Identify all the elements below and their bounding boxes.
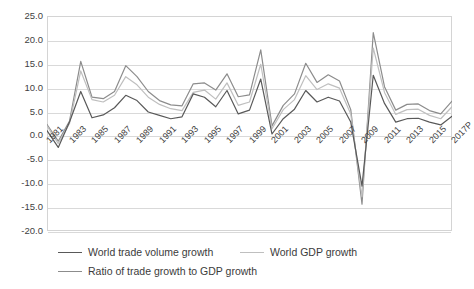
- y-axis-tick-label: 15.0: [25, 59, 44, 69]
- legend-label: Ratio of trade growth to GDP growth: [88, 265, 257, 277]
- chart-legend: World trade volume growth World GDP grow…: [0, 246, 463, 284]
- y-axis-tick-label: -20.0: [21, 226, 43, 236]
- legend-swatch-icon: [58, 252, 82, 253]
- y-axis-tick-label: 10.0: [25, 83, 44, 93]
- series-lines: [47, 16, 452, 231]
- legend-row-2: Ratio of trade growth to GDP growth: [0, 265, 463, 284]
- x-axis-tick-label: 2017P: [449, 120, 474, 145]
- legend-item-ratio-of-trade-growth-to-gdp-growth: Ratio of trade growth to GDP growth: [58, 265, 257, 277]
- y-axis-tick-label: 20.0: [25, 35, 44, 45]
- y-axis-tick-label: -15.0: [21, 202, 43, 212]
- y-axis-tick-label: 5.0: [30, 107, 43, 117]
- y-axis-tick-label: -5.0: [27, 154, 43, 164]
- series-line: [47, 48, 452, 197]
- series-line: [47, 33, 452, 205]
- legend-label: World GDP growth: [270, 246, 357, 258]
- legend-item-world-gdp-growth: World GDP growth: [240, 246, 357, 258]
- gridline: [48, 232, 451, 233]
- y-axis-tick-label: -10.0: [21, 178, 43, 188]
- y-axis-tick-label: 0.0: [30, 130, 43, 140]
- legend-item-world-trade-volume-growth: World trade volume growth: [58, 246, 213, 258]
- legend-swatch-icon: [240, 252, 264, 253]
- legend-label: World trade volume growth: [88, 246, 213, 258]
- legend-row-1: World trade volume growth World GDP grow…: [0, 246, 463, 265]
- legend-swatch-icon: [58, 271, 82, 272]
- y-axis-tick-label: 25.0: [25, 11, 44, 21]
